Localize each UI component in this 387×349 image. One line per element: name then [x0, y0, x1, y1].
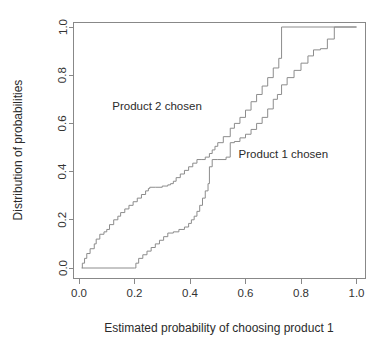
y-tick-label: 0.4	[57, 163, 69, 180]
y-tick-label: 0.8	[57, 67, 69, 83]
y-axis-tick-labels: 0.00.20.40.60.81.0	[57, 19, 69, 276]
x-tick-label: 0.6	[238, 287, 254, 299]
x-tick-label: 0.4	[182, 287, 199, 299]
x-tick-label: 0.8	[293, 287, 309, 299]
chart-figure: 0.00.20.40.60.81.0 0.00.20.40.60.81.0 Pr…	[0, 0, 387, 349]
y-tick-label: 1.0	[57, 19, 69, 35]
x-tick-label: 1.0	[349, 287, 365, 299]
ecdf-plot: 0.00.20.40.60.81.0 0.00.20.40.60.81.0 Pr…	[0, 0, 387, 349]
x-tick-label: 0.0	[71, 287, 87, 299]
y-axis-title: Distribution of probabilities	[11, 80, 25, 221]
x-axis-ticks	[79, 279, 357, 284]
x-tick-label: 0.2	[127, 287, 143, 299]
series-annotation-product-2: Product 2 chosen	[112, 100, 202, 112]
y-tick-label: 0.2	[57, 212, 69, 228]
series-annotation-product-1: Product 1 chosen	[239, 148, 329, 160]
x-axis-tick-labels: 0.00.20.40.60.81.0	[71, 287, 365, 299]
x-axis-title: Estimated probability of choosing produc…	[104, 321, 334, 335]
y-tick-label: 0.0	[57, 260, 69, 276]
y-axis-ticks	[69, 27, 74, 268]
y-tick-label: 0.6	[57, 115, 69, 131]
